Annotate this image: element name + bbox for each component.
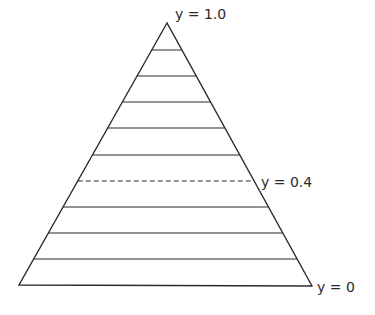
label-top: y = 1.0 (175, 6, 226, 22)
triangle-diagram: y = 1.0 y = 0.4 y = 0 (0, 0, 375, 315)
label-middle: y = 0.4 (261, 174, 312, 190)
label-bottom: y = 0 (317, 279, 355, 295)
level-lines (34, 50, 297, 259)
